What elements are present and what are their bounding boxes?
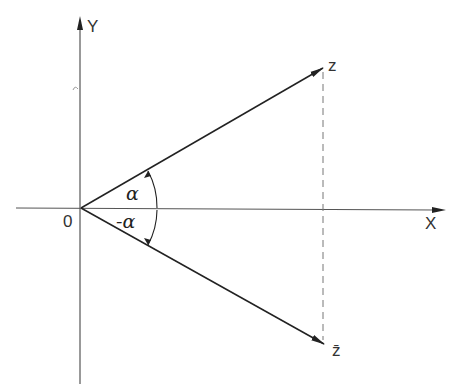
angle-arc-upper	[148, 171, 157, 208]
angle-alpha-label: α	[126, 182, 139, 204]
complex-conjugate-diagram: Y X 0 z z̄ α -α	[0, 0, 455, 392]
y-axis	[77, 16, 83, 384]
z-conjugate-label: z̄	[332, 341, 341, 360]
y-axis-arrow-icon	[77, 16, 83, 30]
x-axis-label: X	[425, 214, 436, 233]
angle-minus-alpha-label: -α	[116, 210, 135, 232]
arc-arrow-upper-icon	[144, 171, 151, 178]
tick-mark	[73, 87, 78, 90]
y-axis-label: Y	[87, 17, 98, 36]
origin-label: 0	[63, 212, 72, 231]
z-label: z	[328, 56, 337, 75]
vector-z	[81, 68, 323, 208]
x-axis-arrow-icon	[432, 207, 446, 213]
